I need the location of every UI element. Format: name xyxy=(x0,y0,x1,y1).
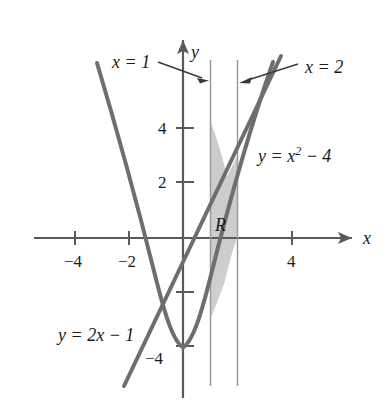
x-tick-label-neg2: −2 xyxy=(118,253,136,270)
y-axis-label: y xyxy=(191,43,199,61)
label-x-equals-2: x = 2 xyxy=(305,58,343,76)
y-tick-label-4: 4 xyxy=(158,120,167,137)
parabola-curve xyxy=(97,62,273,348)
y-tick-label-2: 2 xyxy=(158,174,167,191)
math-figure: x y −4 −2 4 4 2 −4 x = 1 x = 2 y = x2 − … xyxy=(0,0,387,415)
x-tick-label-4: 4 xyxy=(287,253,296,270)
line-curve xyxy=(124,56,281,386)
label-parabola-equation: y = x2 − 4 xyxy=(258,145,331,165)
parabola-equation-base: y = x xyxy=(258,146,295,166)
region-label-R: R xyxy=(215,216,226,234)
arrow-x1-head xyxy=(197,78,209,84)
x-axis-label: x xyxy=(363,229,371,247)
arrow-x1-shaft xyxy=(158,62,202,78)
arrow-x2-head xyxy=(239,77,252,84)
parabola-equation-tail: − 4 xyxy=(301,146,331,166)
x-tick-label-neg4: −4 xyxy=(64,253,82,270)
y-tick-label-neg4: −4 xyxy=(145,350,163,367)
label-line-equation: y = 2x − 1 xyxy=(58,326,134,344)
label-x-equals-1: x = 1 xyxy=(112,53,150,71)
